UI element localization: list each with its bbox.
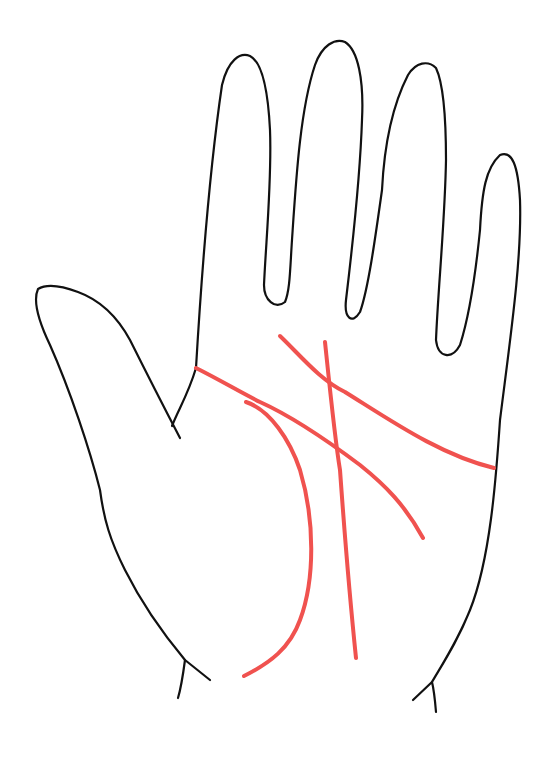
wrist-right (413, 682, 436, 712)
ring-finger-outline (382, 63, 480, 355)
palm-lines (196, 336, 494, 676)
hand-outline (36, 41, 520, 712)
middle-finger-outline (292, 41, 382, 319)
thumb-outline (36, 286, 210, 680)
index-finger-outline (196, 55, 292, 368)
heart-line (280, 336, 494, 468)
pinky-finger-outline (432, 154, 520, 682)
wrist-left (178, 660, 185, 698)
life-line (244, 402, 311, 676)
thumb-web (172, 368, 196, 426)
palm-drawing (0, 0, 550, 757)
